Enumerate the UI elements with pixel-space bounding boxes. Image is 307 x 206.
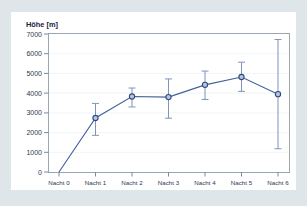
line-chart-svg: Höhe [m] 7000 6000 5000 4000 3000 2000 1… (0, 0, 307, 206)
data-markers (93, 74, 281, 120)
y-tick-label-5000: 5000 (26, 70, 42, 77)
y-tick-label-7000: 7000 (26, 31, 42, 38)
x-tick-label-nacht-4: Nacht 4 (194, 179, 216, 186)
chart-container: Höhe [m] 7000 6000 5000 4000 3000 2000 1… (0, 0, 307, 206)
y-tick-label-1000: 1000 (26, 149, 42, 156)
x-axis: Nacht 0 Nacht 1 Nacht 2 Nacht 3 Nacht 4 … (48, 172, 289, 186)
y-tick-label-4000: 4000 (26, 90, 42, 97)
y-tick-label-2000: 2000 (26, 129, 42, 136)
x-tick-label-nacht-0: Nacht 0 (48, 179, 70, 186)
x-tick-label-nacht-1: Nacht 1 (85, 179, 107, 186)
x-tick-label-nacht-2: Nacht 2 (121, 179, 143, 186)
y-tick-label-0: 0 (38, 169, 42, 176)
y-axis: 7000 6000 5000 4000 3000 2000 1000 0 (26, 31, 48, 176)
y-tick-label-3000: 3000 (26, 109, 42, 116)
x-tick-label-nacht-3: Nacht 3 (158, 179, 180, 186)
y-axis-title: Höhe [m] (26, 20, 59, 29)
x-tick-label-nacht-5: Nacht 5 (231, 179, 253, 186)
x-tick-label-nacht-6: Nacht 6 (267, 179, 289, 186)
y-tick-label-6000: 6000 (26, 50, 42, 57)
